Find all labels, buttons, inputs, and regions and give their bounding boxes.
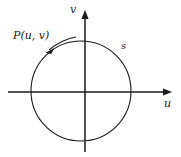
circle-s-label: s: [121, 41, 126, 51]
v-axis-arrowhead: [81, 10, 88, 19]
v-axis-label: v: [70, 4, 76, 15]
u-axis-group: [8, 88, 172, 95]
u-axis-arrowhead: [163, 88, 172, 95]
u-axis-label: u: [164, 98, 171, 109]
point-p-label: P(u, v): [13, 30, 49, 41]
point-p-leader-line: [49, 37, 76, 50]
math-figure-canvas: v u s P(u, v): [0, 0, 181, 157]
figure-vector-layer: [0, 0, 181, 157]
circle-s-path: [31, 41, 131, 141]
v-axis-group: [81, 10, 88, 152]
